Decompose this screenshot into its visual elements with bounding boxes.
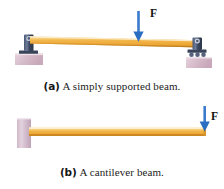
wall-top-highlight xyxy=(17,118,31,119)
caption-a: (a) A simply supported beam. xyxy=(0,76,224,94)
panel-cantilever-beam: F (b) A cantilever beam. xyxy=(0,96,224,189)
force-label-b: F xyxy=(211,110,218,122)
force-arrow-shaft xyxy=(137,11,140,33)
caption-tag-b: (b) xyxy=(60,166,77,178)
roller-wheel xyxy=(201,53,206,58)
cantilever-beam-diagram xyxy=(0,96,224,164)
pin-support-base xyxy=(15,54,43,66)
pin-support-pin-center xyxy=(28,37,31,40)
roller-support-pin-center xyxy=(196,40,199,43)
beam-bottom-edge xyxy=(29,134,206,136)
panel-simply-supported-beam: F (a) A simply supported beam. xyxy=(0,0,224,96)
beam-top-highlight xyxy=(29,128,206,130)
roller-wheel xyxy=(189,53,194,58)
caption-b: (b) A cantilever beam. xyxy=(0,162,224,180)
simply-supported-beam-diagram xyxy=(0,0,224,76)
wall-block xyxy=(17,118,31,148)
force-label-a: F xyxy=(150,7,157,19)
force-arrow-shaft xyxy=(203,106,206,123)
force-arrow-down xyxy=(133,11,143,42)
beam-simply-supported xyxy=(30,36,201,47)
roller-support-plate xyxy=(188,49,207,52)
roller-wheel xyxy=(195,53,200,58)
beam-cantilever xyxy=(29,128,206,136)
fixed-wall-support xyxy=(17,118,31,148)
caption-tag-a: (a) xyxy=(44,80,60,92)
caption-text-a: A simply supported beam. xyxy=(63,80,181,92)
roller-support-base-highlight xyxy=(186,57,212,59)
roller-support-base xyxy=(186,57,212,68)
caption-text-b: A cantilever beam. xyxy=(79,166,164,178)
beam-supports-figure: F (a) A simply supported beam. xyxy=(0,0,224,189)
